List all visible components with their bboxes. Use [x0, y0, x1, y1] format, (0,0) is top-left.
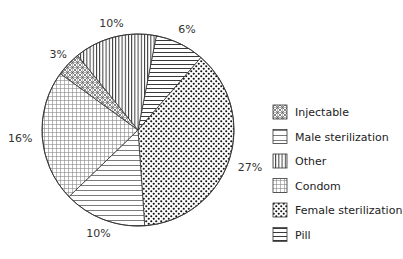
- legend-swatch-pill: [273, 228, 287, 242]
- legend-label-injectable: Injectable: [295, 106, 349, 119]
- legend-swatch-condom: [273, 179, 287, 193]
- legend: InjectableMale sterilizationOtherCondomF…: [273, 105, 402, 242]
- pie-chart: 6%27%10%16%3%10% InjectableMale steriliz…: [0, 0, 403, 259]
- legend-swatch-female-sterilization: [273, 203, 287, 217]
- legend-label-male-sterilization: Male sterilization: [295, 131, 389, 144]
- pie-slices: [42, 34, 234, 226]
- legend-swatch-male-sterilization: [273, 130, 287, 144]
- legend-label-condom: Condom: [295, 180, 341, 193]
- legend-item-female-sterilization: Female sterilization: [273, 203, 402, 217]
- legend-label-other: Other: [295, 155, 327, 168]
- legend-label-female-sterilization: Female sterilization: [295, 204, 402, 217]
- legend-label-pill: Pill: [295, 229, 311, 242]
- legend-swatch-injectable: [273, 105, 287, 119]
- percent-label-female-sterilization: 27%: [238, 161, 262, 174]
- legend-item-pill: Pill: [273, 228, 311, 242]
- legend-item-other: Other: [273, 154, 327, 168]
- percent-label-condom: 16%: [8, 132, 32, 145]
- percent-label-pill: 6%: [178, 23, 195, 36]
- percent-label-injectable: 3%: [49, 48, 66, 61]
- percent-label-male-sterilization: 10%: [86, 227, 110, 240]
- legend-item-condom: Condom: [273, 179, 341, 193]
- legend-swatch-other: [273, 154, 287, 168]
- legend-item-male-sterilization: Male sterilization: [273, 130, 389, 144]
- legend-item-injectable: Injectable: [273, 105, 349, 119]
- percent-label-other: 10%: [99, 17, 123, 30]
